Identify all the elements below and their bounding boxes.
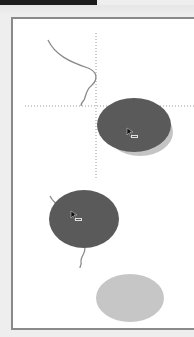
ellipse-light-lower[interactable]: [96, 274, 164, 322]
ellipse-dark-middle[interactable]: [49, 190, 119, 248]
connector-curve-bottom[interactable]: [80, 248, 85, 268]
connector-curve-top[interactable]: [48, 40, 96, 106]
canvas-scene[interactable]: [0, 0, 194, 337]
ellipse-dark-upper[interactable]: [97, 98, 171, 152]
